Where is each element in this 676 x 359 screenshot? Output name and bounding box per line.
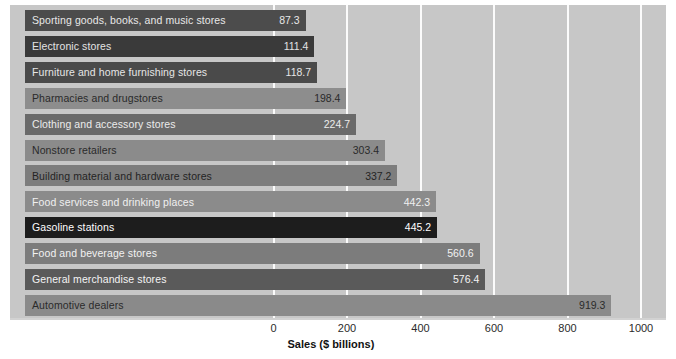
bar-row: Pharmacies and drugstores198.4: [10, 88, 666, 109]
bar-category-label: Clothing and accessory stores: [32, 119, 176, 130]
bar: Food services and drinking places442.3: [25, 191, 436, 212]
bar: Gasoline stations445.2: [25, 217, 437, 238]
bar: Nonstore retailers303.4: [25, 140, 385, 161]
bar-category-label: General merchandise stores: [32, 274, 167, 285]
bar: Pharmacies and drugstores198.4: [25, 88, 346, 109]
x-tick-label: 200: [338, 322, 356, 334]
bar-category-label: Building material and hardware stores: [32, 171, 212, 182]
bar-value-label: 442.3: [404, 197, 430, 208]
bar: Clothing and accessory stores224.7: [25, 114, 356, 135]
bar: General merchandise stores576.4: [25, 269, 485, 290]
bar-row: Food and beverage stores560.6: [10, 243, 666, 264]
bar: Furniture and home furnishing stores118.…: [25, 62, 317, 83]
bar-row: Building material and hardware stores337…: [10, 165, 666, 186]
bars-layer: Sporting goods, books, and music stores8…: [10, 5, 666, 318]
bar-category-label: Food and beverage stores: [32, 248, 157, 259]
bar: Building material and hardware stores337…: [25, 165, 397, 186]
bar-row: General merchandise stores576.4: [10, 269, 666, 290]
bar: Automotive dealers919.3: [25, 295, 611, 316]
bar-category-label: Sporting goods, books, and music stores: [32, 15, 226, 26]
bar-value-label: 118.7: [286, 67, 312, 78]
plot-area: Sporting goods, books, and music stores8…: [10, 5, 666, 318]
bar: Food and beverage stores560.6: [25, 243, 480, 264]
bar-category-label: Electronic stores: [32, 41, 111, 52]
x-tick-label: 800: [558, 322, 576, 334]
bar-category-label: Automotive dealers: [32, 300, 124, 311]
bar-value-label: 303.4: [353, 145, 379, 156]
bar-category-label: Gasoline stations: [32, 222, 114, 233]
bar-value-label: 919.3: [579, 300, 605, 311]
bar-row: Sporting goods, books, and music stores8…: [10, 10, 666, 31]
bar-row: Electronic stores111.4: [10, 36, 666, 57]
bar-value-label: 337.2: [365, 171, 391, 182]
bar-value-label: 198.4: [314, 93, 340, 104]
bar-category-label: Nonstore retailers: [32, 145, 117, 156]
bar: Electronic stores111.4: [25, 36, 314, 57]
bar-row: Furniture and home furnishing stores118.…: [10, 62, 666, 83]
x-tick-label: 1000: [629, 322, 653, 334]
x-axis-line: [10, 318, 666, 320]
x-tick-label: 600: [485, 322, 503, 334]
bar-row: Gasoline stations445.2: [10, 217, 666, 238]
bar-value-label: 576.4: [453, 274, 479, 285]
bar-row: Automotive dealers919.3: [10, 295, 666, 316]
horizontal-bar-chart: Sporting goods, books, and music stores8…: [0, 0, 676, 359]
bar-value-label: 87.3: [279, 15, 299, 26]
x-tick-label: 400: [411, 322, 429, 334]
bar-row: Food services and drinking places442.3: [10, 191, 666, 212]
bar: Sporting goods, books, and music stores8…: [25, 10, 306, 31]
bar-category-label: Furniture and home furnishing stores: [32, 67, 207, 78]
bar-row: Nonstore retailers303.4: [10, 140, 666, 161]
bar-value-label: 560.6: [447, 248, 473, 259]
x-tick-label: 0: [270, 322, 276, 334]
bar-value-label: 224.7: [324, 119, 350, 130]
bar-category-label: Food services and drinking places: [32, 197, 194, 208]
bar-category-label: Pharmacies and drugstores: [32, 93, 163, 104]
bar-row: Clothing and accessory stores224.7: [10, 114, 666, 135]
x-axis-title: Sales ($ billions): [288, 338, 375, 350]
bar-value-label: 111.4: [284, 41, 309, 52]
bar-value-label: 445.2: [405, 222, 431, 233]
